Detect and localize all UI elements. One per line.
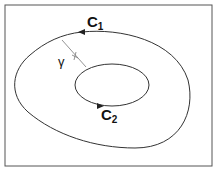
label-gamma: γ [58,54,65,69]
arrow-c1-icon [78,29,85,35]
label-c1: C1 [87,13,104,32]
label-c2: C2 [101,106,118,125]
inner-curve-c2 [75,64,149,106]
outer-curve-c1 [15,31,190,148]
frame-border [5,5,212,166]
diagram-canvas: C1 C2 γ [0,0,217,171]
cut-gamma-line [62,40,86,67]
